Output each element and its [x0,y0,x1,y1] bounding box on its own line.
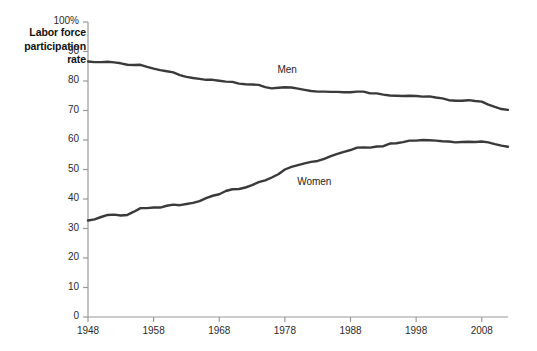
chart-container: Labor force participation rate 010203040… [0,0,537,351]
series-label-women: Women [297,176,331,187]
y-axis-tick-label: 90 [39,45,79,56]
chart-plot-svg [0,0,537,351]
y-axis-tick-label: 80 [39,74,79,85]
series-label-men: Men [277,64,296,75]
y-axis-tick-label: 0 [39,310,79,321]
x-axis-tick-label: 1958 [131,325,177,336]
chart-series-lines [88,62,508,221]
x-axis-tick-label: 2008 [459,325,505,336]
x-axis-tick-label: 1948 [65,325,111,336]
x-axis-tick-label: 1968 [196,325,242,336]
y-axis-tick-label: 20 [39,251,79,262]
series-line-men [88,62,508,110]
x-axis-tick-label: 1978 [262,325,308,336]
y-axis-tick-label: 100% [39,15,79,26]
x-axis-ticks [88,317,482,322]
y-axis-tick-label: 50 [39,163,79,174]
x-axis-tick-label: 1998 [393,325,439,336]
y-axis-tick-label: 10 [39,281,79,292]
chart-axes [88,22,508,317]
y-axis-ticks [83,22,88,317]
x-axis-tick-label: 1988 [328,325,374,336]
y-axis-tick-label: 60 [39,133,79,144]
y-axis-tick-label: 70 [39,104,79,115]
y-axis-tick-label: 40 [39,192,79,203]
y-axis-tick-label: 30 [39,222,79,233]
